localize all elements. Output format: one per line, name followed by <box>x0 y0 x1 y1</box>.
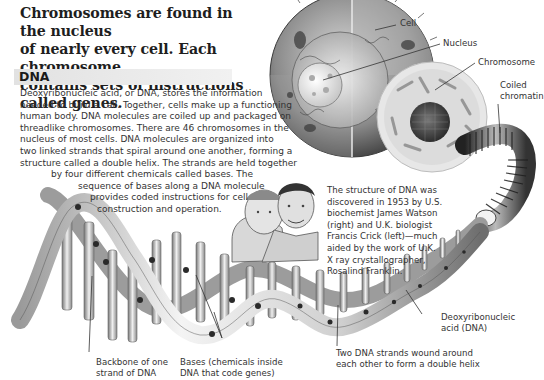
label-coiled-chromatin: Coiled chromatin <box>500 80 544 101</box>
headline-line: Chromosomes are found in the nucleus <box>20 4 260 40</box>
body-line: construction and operation. <box>20 204 297 216</box>
label-nucleus: Nucleus <box>443 38 477 49</box>
body-line: needed to build a cell. Together, cells … <box>20 100 297 112</box>
body-line: two linked strands that spiral around on… <box>20 146 297 158</box>
label-line: DNA that code genes) <box>180 368 283 379</box>
label-bases: Bases (chemicals inside DNA that code ge… <box>180 357 283 378</box>
label-cell: Cell <box>400 18 416 29</box>
label-line: Deoxyribonucleic <box>441 312 515 323</box>
coiled-chromatin-illustration <box>465 127 528 226</box>
label-line: Two DNA strands wound around <box>336 348 480 359</box>
section-body: Deoxyribonucleic acid, or DNA, stores th… <box>20 88 297 216</box>
caption-line: (right) and U.K. biologist <box>327 220 442 232</box>
body-line: by four different chemicals called bases… <box>20 169 297 181</box>
body-line: threadlike chromosomes. There are 46 chr… <box>20 123 297 135</box>
body-line: human body. DNA molecules are coiled up … <box>20 111 297 123</box>
section-title: DNA <box>19 69 50 85</box>
label-line: Backbone of one <box>96 357 168 368</box>
body-line: Deoxyribonucleic acid, or DNA, stores th… <box>20 88 297 100</box>
label-double-helix: Two DNA strands wound around each other … <box>336 348 480 369</box>
body-line: nucleus of most cells. DNA molecules are… <box>20 134 297 146</box>
caption-line: The structure of DNA was <box>327 185 442 197</box>
label-line: Bases (chemicals inside <box>180 357 283 368</box>
caption-line: Rosalind Franklin. <box>327 266 442 278</box>
label-line: acid (DNA) <box>441 323 515 334</box>
body-line: structure called a double helix. The str… <box>20 158 297 170</box>
label-line: Coiled <box>500 80 544 91</box>
label-line: chromatin <box>500 91 544 102</box>
caption-line: aided by the work of U.K. <box>327 243 442 255</box>
body-line: provides coded instructions for cell <box>20 192 297 204</box>
label-chromosome: Chromosome <box>478 57 535 68</box>
label-line: each other to form a double helix <box>336 359 480 370</box>
discovery-caption: The structure of DNA was discovered in 1… <box>327 185 442 278</box>
label-dna: Deoxyribonucleic acid (DNA) <box>441 312 515 333</box>
body-line: sequence of bases along a DNA molecule <box>20 181 297 193</box>
label-backbone: Backbone of one strand of DNA <box>96 357 168 378</box>
caption-line: discovered in 1953 by U.S. <box>327 197 442 209</box>
caption-line: biochemist James Watson <box>327 208 442 220</box>
caption-line: X ray crystallographer, <box>327 255 442 267</box>
caption-line: Francis Crick (left)—much <box>327 231 442 243</box>
label-line: strand of DNA <box>96 368 168 379</box>
